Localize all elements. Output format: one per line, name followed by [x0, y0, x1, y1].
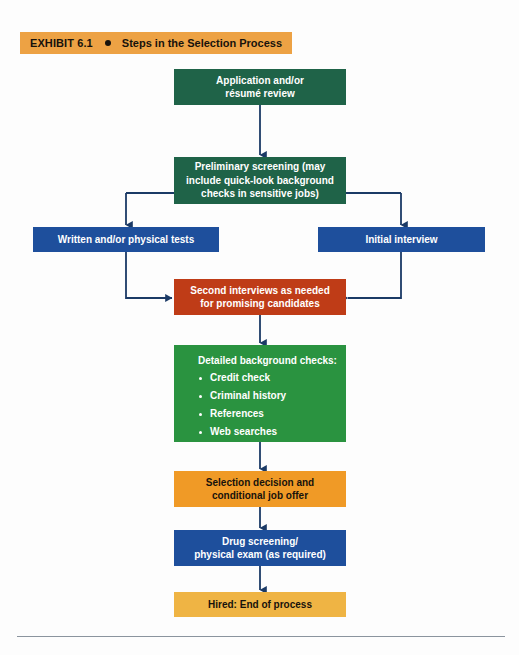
node-drug-screening: Drug screening/ physical exam (as requir…: [174, 530, 346, 566]
list-item: Criminal history: [210, 391, 286, 401]
list-item: Credit check: [210, 373, 286, 383]
exhibit-figure: EXHIBIT 6.1 Steps in the Selection Proce…: [0, 0, 519, 655]
node-line: include quick-look background: [186, 174, 334, 188]
node-line: for promising candidates: [200, 297, 319, 311]
edge-written-second: [126, 252, 172, 298]
node-selection-decision: Selection decision and conditional job o…: [174, 471, 346, 507]
list-item: References: [210, 409, 286, 419]
edge-interview-second: [348, 252, 401, 298]
background-checks-list: Credit check Criminal history References…: [198, 373, 286, 445]
node-line: Drug screening/: [222, 535, 298, 549]
node-detailed-background-checks: Detailed background checks: Credit check…: [174, 345, 346, 442]
node-preliminary-screening: Preliminary screening (may include quick…: [174, 157, 346, 204]
node-second-interviews: Second interviews as needed for promisin…: [174, 279, 346, 315]
exhibit-banner: EXHIBIT 6.1 Steps in the Selection Proce…: [20, 32, 292, 54]
node-line: résumé review: [225, 87, 295, 101]
exhibit-number-label: EXHIBIT 6.1: [30, 37, 93, 49]
node-application-review: Application and/or résumé review: [174, 69, 346, 105]
node-line: Second interviews as needed: [190, 284, 330, 298]
node-line: Application and/or: [216, 74, 304, 88]
node-line: checks in sensitive jobs): [201, 187, 319, 201]
background-checks-heading: Detailed background checks:: [198, 354, 337, 368]
node-hired-end-of-process: Hired: End of process: [174, 592, 346, 617]
node-line: Hired: End of process: [208, 598, 312, 612]
node-line: Selection decision and: [206, 476, 314, 490]
node-line: physical exam (as required): [194, 548, 326, 562]
node-written-physical-tests: Written and/or physical tests: [33, 227, 219, 252]
node-line: Preliminary screening (may: [195, 160, 326, 174]
page-divider-rule: [17, 636, 505, 637]
node-initial-interview: Initial interview: [318, 227, 485, 252]
node-line: Initial interview: [365, 233, 437, 247]
bullet-dot-icon: [105, 40, 111, 46]
exhibit-title: Steps in the Selection Process: [122, 37, 282, 49]
node-line: Written and/or physical tests: [58, 233, 195, 247]
node-line: conditional job offer: [212, 489, 308, 503]
list-item: Web searches: [210, 427, 286, 437]
